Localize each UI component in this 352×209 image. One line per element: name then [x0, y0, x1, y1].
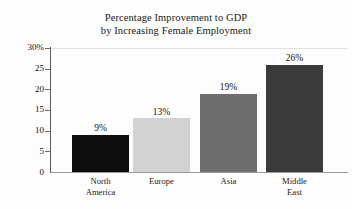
y-tick-label-0: 0	[4, 168, 44, 177]
y-tick-label-25: 25	[4, 64, 44, 73]
x-axis-line	[51, 172, 348, 173]
chart-title: Percentage Improvement to GDP by Increas…	[0, 11, 352, 37]
y-tick-label-5: 5	[4, 147, 44, 156]
top-gridline	[51, 48, 348, 49]
bar-europe[interactable]	[133, 118, 190, 172]
category-label-middle-east-line-2: East	[255, 187, 334, 198]
category-label-middle-east-line-1: Middle	[255, 176, 334, 187]
bar-value-label-middle-east: 26%	[260, 53, 329, 63]
bar-value-label-north-america: 9%	[66, 123, 135, 133]
y-tick-label-10: 10	[4, 126, 44, 135]
bar-value-label-europe: 13%	[127, 107, 196, 117]
y-tick-label-15: 15	[4, 105, 44, 114]
y-tick-label-30: 30%	[4, 43, 44, 52]
bar-asia[interactable]	[200, 94, 257, 173]
bar-north-america[interactable]	[72, 135, 129, 172]
bar-value-label-asia: 19%	[194, 82, 263, 92]
category-label-north-america-line-2: America	[61, 187, 140, 198]
bar-chart-figure: Percentage Improvement to GDP by Increas…	[0, 0, 352, 209]
bar-middle-east[interactable]	[266, 65, 323, 173]
y-tick-label-20: 20	[4, 85, 44, 94]
chart-title-line-2: by Increasing Female Employment	[0, 24, 352, 37]
category-label-middle-east: Middle East	[255, 176, 334, 197]
chart-title-line-1: Percentage Improvement to GDP	[0, 11, 352, 24]
plot-area: 9% 13% 19% 26%	[51, 48, 348, 172]
